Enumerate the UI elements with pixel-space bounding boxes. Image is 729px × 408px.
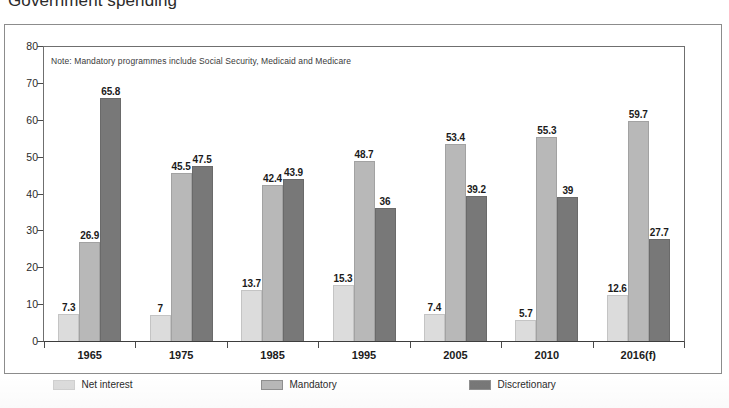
bar-value-label: 13.7	[242, 278, 261, 289]
y-axis-labels: 01020304050607080	[8, 46, 38, 342]
bar: 55.3	[536, 137, 557, 341]
y-axis-tick-mark	[37, 157, 43, 158]
x-axis-tick-mark	[318, 342, 319, 348]
bar-group: 745.547.5	[150, 46, 213, 341]
legend-label: Mandatory	[290, 379, 337, 390]
bar: 26.9	[79, 242, 100, 341]
y-axis-tick-mark	[37, 304, 43, 305]
x-axis-tick-mark	[227, 342, 228, 348]
bar: 47.5	[192, 166, 213, 341]
chart-legend: Net interestMandatoryDiscretionary	[0, 379, 729, 390]
bar-value-label: 39.2	[467, 184, 486, 195]
bar-group: 15.348.736	[333, 46, 396, 341]
bar-value-label: 5.7	[519, 308, 533, 319]
bar: 27.7	[649, 239, 670, 341]
y-axis-tick-label: 80	[12, 40, 38, 52]
legend-swatch-icon	[53, 380, 75, 390]
x-axis-tick-mark	[410, 342, 411, 348]
x-axis-tick-label: 1985	[260, 349, 284, 361]
y-axis-tick-mark	[37, 83, 43, 84]
bar: 39.2	[466, 196, 487, 341]
y-axis-tick-label: 10	[12, 298, 38, 310]
x-axis-ticks	[44, 342, 684, 348]
bar-value-label: 47.5	[193, 154, 212, 165]
bar-group: 5.755.339	[515, 46, 578, 341]
bar: 36	[375, 208, 396, 341]
bar: 59.7	[628, 121, 649, 341]
bar-value-label: 7.4	[428, 302, 442, 313]
bar-value-label: 43.9	[284, 167, 303, 178]
bar: 12.6	[607, 295, 628, 341]
bar: 48.7	[354, 161, 375, 341]
legend-item: Net interest	[53, 379, 261, 390]
bar: 7.4	[424, 314, 445, 341]
legend-item: Discretionary	[469, 379, 677, 390]
bar-value-label: 48.7	[354, 149, 373, 160]
y-axis-tick-mark	[37, 267, 43, 268]
x-axis-tick-mark	[135, 342, 136, 348]
bar-value-label: 53.4	[446, 132, 465, 143]
bar-value-label: 27.7	[650, 227, 669, 238]
bar: 13.7	[241, 290, 262, 341]
y-axis-tick-label: 50	[12, 151, 38, 163]
x-axis-labels: 1965197519851995200520102016(f)	[44, 349, 684, 365]
legend-label: Discretionary	[498, 379, 556, 390]
x-axis-tick-mark	[593, 342, 594, 348]
y-axis-tick-mark	[37, 46, 43, 47]
y-axis-tick-label: 30	[12, 224, 38, 236]
legend-label: Net interest	[82, 379, 133, 390]
bar: 7.3	[58, 314, 79, 341]
bar-value-label: 59.7	[629, 109, 648, 120]
bar: 7	[150, 315, 171, 341]
bar: 5.7	[515, 320, 536, 341]
bar-value-label: 7	[157, 303, 162, 314]
bars-layer: 7.326.965.8745.547.513.742.443.915.348.7…	[44, 46, 684, 341]
bar-value-label: 15.3	[333, 273, 352, 284]
bar-group: 13.742.443.9	[241, 46, 304, 341]
bar-value-label: 42.4	[263, 173, 282, 184]
x-axis-tick-label: 2016(f)	[621, 349, 656, 361]
y-axis-tick-label: 20	[12, 261, 38, 273]
bar-value-label: 26.9	[80, 230, 99, 241]
bar: 45.5	[171, 173, 192, 341]
x-axis-tick-label: 1965	[77, 349, 101, 361]
x-axis-tick-label: 2005	[443, 349, 467, 361]
bar-value-label: 65.8	[101, 86, 120, 97]
bar: 42.4	[262, 185, 283, 341]
bar-group: 12.659.727.7	[607, 46, 670, 341]
bar-value-label: 39	[562, 185, 573, 196]
bar-value-label: 45.5	[172, 161, 191, 172]
bar-value-label: 36	[380, 196, 391, 207]
y-axis-tick-label: 40	[12, 188, 38, 200]
y-axis-tick-mark	[37, 341, 43, 342]
x-axis-tick-mark	[44, 342, 45, 348]
x-axis-tick-mark	[501, 342, 502, 348]
bar: 39	[557, 197, 578, 341]
bar: 53.4	[445, 144, 466, 341]
bar: 15.3	[333, 285, 354, 341]
y-axis-tick-label: 60	[12, 114, 38, 126]
bar-value-label: 7.3	[62, 302, 76, 313]
bar-value-label: 55.3	[537, 125, 556, 136]
bar-value-label: 12.6	[608, 283, 627, 294]
y-axis-tick-label: 70	[12, 77, 38, 89]
y-axis-ticks	[37, 46, 43, 342]
x-axis-tick-mark	[684, 342, 685, 348]
x-axis-tick-label: 1975	[169, 349, 193, 361]
legend-swatch-icon	[261, 380, 283, 390]
x-axis-tick-label: 1995	[352, 349, 376, 361]
bar: 65.8	[100, 98, 121, 341]
y-axis-tick-mark	[37, 120, 43, 121]
y-axis-tick-mark	[37, 194, 43, 195]
y-axis-tick-mark	[37, 230, 43, 231]
y-axis-tick-label: 0	[12, 335, 38, 347]
x-axis-tick-label: 2010	[535, 349, 559, 361]
bar: 43.9	[283, 179, 304, 341]
page-title: Government spending	[8, 0, 177, 11]
legend-item: Mandatory	[261, 379, 469, 390]
bar-group: 7.326.965.8	[58, 46, 121, 341]
bar-group: 7.453.439.2	[424, 46, 487, 341]
legend-swatch-icon	[469, 380, 491, 390]
